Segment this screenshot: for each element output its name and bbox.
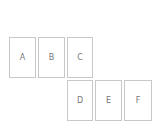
box-f-label: F <box>136 96 141 105</box>
box-a: A <box>9 37 36 78</box>
box-d: D <box>67 80 93 121</box>
box-d-label: D <box>77 96 83 105</box>
box-a-label: A <box>20 53 25 62</box>
box-f: F <box>124 80 152 121</box>
box-e: E <box>95 80 122 121</box>
box-c-label: C <box>77 53 83 62</box>
box-b-label: B <box>49 53 55 62</box>
box-e-label: E <box>106 96 111 105</box>
box-c: C <box>67 37 93 78</box>
box-b: B <box>38 37 65 78</box>
